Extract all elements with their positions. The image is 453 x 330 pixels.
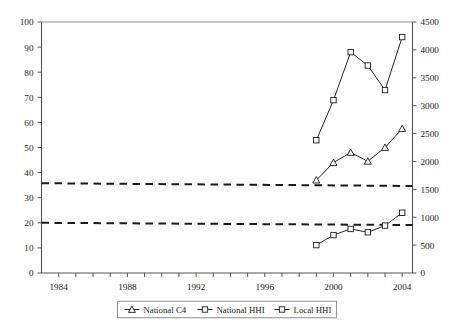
data-point [331,97,336,102]
data-point [331,232,336,237]
x-tick-label: 1988 [118,282,137,292]
y-tick-label-right: 1000 [421,213,440,223]
data-point [365,230,370,235]
data-point [365,63,370,68]
y-tick-label-right: 2500 [421,129,440,139]
data-point [314,242,319,247]
x-tick-label: 1992 [187,282,206,292]
y-tick-label-left: 50 [24,143,34,153]
y-tick-label-left: 40 [24,168,34,178]
line-chart: 0102030405060708090100 05001000150020002… [0,0,453,330]
legend-label: National C4 [143,305,186,315]
x-tick-label: 2004 [393,282,412,292]
y-tick-label-left: 10 [24,243,34,253]
data-point [399,34,404,39]
chart-legend: National C4National HHILocal HHI [117,301,336,318]
x-tick-label: 2000 [324,282,343,292]
y-tick-label-left: 30 [24,193,34,203]
chart-figure: 0102030405060708090100 05001000150020002… [0,0,453,330]
y-tick-label-left: 70 [24,93,34,103]
y-tick-label-right: 4000 [421,45,440,55]
y-tick-label-left: 20 [24,218,34,228]
chart-background [0,0,453,330]
y-tick-label-left: 100 [20,17,34,27]
y-tick-label-right: 4500 [421,17,440,27]
data-point [314,138,319,143]
x-tick-label: 1996 [256,282,275,292]
y-tick-label-right: 3000 [421,101,440,111]
data-point [399,210,404,215]
y-tick-label-right: 500 [421,241,435,251]
data-point [382,87,387,92]
x-tick-label: 1984 [49,282,68,292]
legend-label: Local HHI [294,305,332,315]
legend-marker-square [202,307,207,312]
y-tick-label-right: 1500 [421,185,440,195]
data-point [348,226,353,231]
legend-label: National HHI [216,305,264,315]
y-tick-label-left: 60 [24,118,34,128]
y-tick-label-left: 80 [24,68,34,78]
y-tick-label-left: 0 [29,268,34,278]
data-point [348,49,353,54]
y-tick-label-right: 2000 [421,157,440,167]
y-tick-label-left: 90 [24,43,34,53]
legend-marker-square [279,307,284,312]
y-tick-label-right: 3500 [421,73,440,83]
y-tick-label-right: 0 [421,268,426,278]
data-point [382,223,387,228]
